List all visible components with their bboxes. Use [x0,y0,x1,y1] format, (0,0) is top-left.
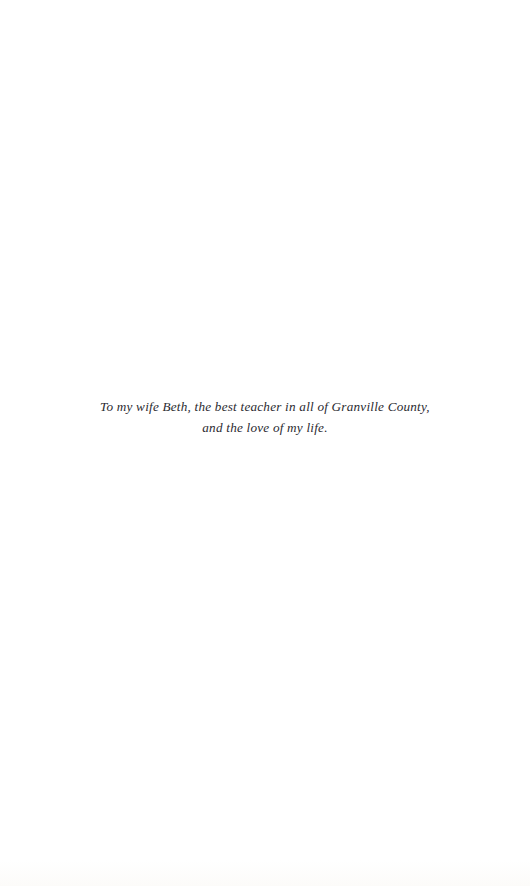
dedication-line-1: To my wife Beth, the best teacher in all… [40,396,490,417]
page-bottom-tint [0,860,530,886]
dedication-line-2: and the love of my life. [40,417,490,438]
dedication-text-block: To my wife Beth, the best teacher in all… [0,396,530,438]
dedication-page: To my wife Beth, the best teacher in all… [0,0,530,886]
